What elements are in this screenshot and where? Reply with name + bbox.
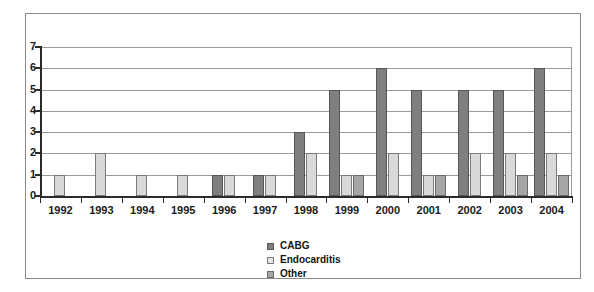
legend-item-endo[interactable]: Endocarditis bbox=[267, 254, 341, 266]
x-tick-mark-2001 bbox=[408, 198, 409, 203]
bar-group-1999 bbox=[329, 47, 365, 196]
bar-endo-2004 bbox=[546, 153, 557, 196]
bar-endo-1995 bbox=[177, 175, 188, 196]
bar-cabg-1998 bbox=[294, 132, 305, 196]
y-tick-mark-6 bbox=[35, 67, 41, 69]
y-tick-label-2: 2 bbox=[14, 147, 36, 158]
bar-group-1992 bbox=[54, 47, 66, 196]
x-tick-mark-2003 bbox=[490, 198, 491, 203]
y-tick-label-7: 7 bbox=[14, 41, 36, 52]
legend-swatch-cabg-icon bbox=[267, 243, 274, 250]
bar-group-2002 bbox=[458, 47, 482, 196]
bar-endo-1998 bbox=[306, 153, 317, 196]
legend-label-other: Other bbox=[280, 269, 307, 279]
bar-endo-2002 bbox=[470, 153, 481, 196]
x-tick-label-2004: 2004 bbox=[522, 205, 582, 216]
bar-endo-1996 bbox=[224, 175, 235, 196]
x-tick-mark-1995 bbox=[163, 198, 164, 203]
bar-endo-2000 bbox=[388, 153, 399, 196]
x-tick-mark-2002 bbox=[449, 198, 450, 203]
bar-group-2000 bbox=[376, 47, 400, 196]
x-tick-mark-2004 bbox=[531, 198, 532, 203]
y-axis-tick-labels: 01234567 bbox=[10, 0, 36, 292]
bar-other-1999 bbox=[353, 175, 364, 196]
y-tick-label-1: 1 bbox=[14, 169, 36, 180]
x-tick-mark-1992 bbox=[40, 198, 41, 203]
x-tick-mark-1996 bbox=[204, 198, 205, 203]
x-tick-mark-1999 bbox=[326, 198, 327, 203]
bar-group-2003 bbox=[493, 47, 529, 196]
bar-endo-2003 bbox=[505, 153, 516, 196]
legend-swatch-other-icon bbox=[267, 271, 274, 278]
x-tick-mark-1993 bbox=[81, 198, 82, 203]
x-tick-mark-end bbox=[572, 198, 573, 203]
y-tick-mark-5 bbox=[35, 89, 41, 91]
bar-endo-1994 bbox=[136, 175, 147, 196]
bar-group-1993 bbox=[95, 47, 107, 196]
bar-cabg-1996 bbox=[212, 175, 223, 196]
bar-endo-1992 bbox=[54, 175, 65, 196]
y-tick-label-3: 3 bbox=[14, 126, 36, 137]
bar-other-2001 bbox=[435, 175, 446, 196]
bar-cabg-2004 bbox=[534, 68, 545, 196]
bar-endo-1997 bbox=[265, 175, 276, 196]
x-axis-line bbox=[40, 196, 573, 198]
legend-item-cabg[interactable]: CABG bbox=[267, 240, 341, 252]
bar-group-1998 bbox=[294, 47, 318, 196]
x-tick-mark-1997 bbox=[245, 198, 246, 203]
chart-legend: CABGEndocarditisOther bbox=[267, 240, 341, 282]
x-tick-mark-1994 bbox=[122, 198, 123, 203]
bar-endo-1999 bbox=[341, 175, 352, 196]
plot-area bbox=[40, 47, 572, 196]
y-tick-label-6: 6 bbox=[14, 62, 36, 73]
y-tick-mark-2 bbox=[35, 152, 41, 154]
legend-label-cabg: CABG bbox=[280, 241, 309, 251]
bar-cabg-1999 bbox=[329, 90, 340, 196]
bar-group-1996 bbox=[212, 47, 236, 196]
bar-cabg-2000 bbox=[376, 68, 387, 196]
x-tick-mark-2000 bbox=[367, 198, 368, 203]
y-tick-label-0: 0 bbox=[14, 190, 36, 201]
bar-endo-1993 bbox=[95, 153, 106, 196]
y-tick-label-4: 4 bbox=[14, 105, 36, 116]
bar-cabg-2003 bbox=[493, 90, 504, 196]
y-tick-mark-0 bbox=[35, 195, 41, 197]
bar-group-1994 bbox=[136, 47, 148, 196]
bar-endo-2001 bbox=[423, 175, 434, 196]
legend-label-endo: Endocarditis bbox=[280, 255, 341, 265]
bar-group-1995 bbox=[177, 47, 189, 196]
y-tick-label-5: 5 bbox=[14, 84, 36, 95]
y-tick-mark-3 bbox=[35, 131, 41, 133]
bar-cabg-2002 bbox=[458, 90, 469, 196]
bar-group-2001 bbox=[411, 47, 447, 196]
y-tick-mark-7 bbox=[35, 46, 41, 48]
figure-root: 01234567 1992199319941995199619971998199… bbox=[0, 0, 594, 292]
bar-other-2003 bbox=[517, 175, 528, 196]
y-tick-mark-1 bbox=[35, 174, 41, 176]
bar-other-2004 bbox=[558, 175, 569, 196]
bar-cabg-1997 bbox=[253, 175, 264, 196]
bar-cabg-2001 bbox=[411, 90, 422, 196]
legend-item-other[interactable]: Other bbox=[267, 268, 341, 280]
bar-group-2004 bbox=[534, 47, 570, 196]
bar-group-1997 bbox=[253, 47, 277, 196]
legend-swatch-endo-icon bbox=[267, 257, 274, 264]
y-tick-mark-4 bbox=[35, 110, 41, 112]
x-tick-mark-1998 bbox=[286, 198, 287, 203]
